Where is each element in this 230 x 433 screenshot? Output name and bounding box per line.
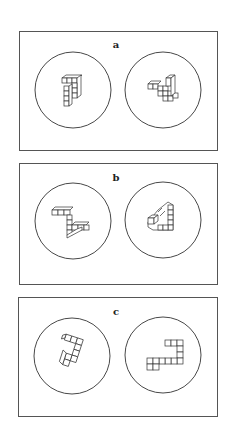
shape-c-left <box>54 333 83 368</box>
shape-b-right <box>148 202 173 230</box>
circle-c-right <box>125 317 201 393</box>
shape-b-left <box>52 207 89 238</box>
figure-drawings <box>0 0 230 433</box>
shape-a-right <box>148 75 178 101</box>
circle-b-left <box>35 183 111 259</box>
shape-c-right <box>147 340 183 370</box>
shape-a-left <box>62 75 82 106</box>
